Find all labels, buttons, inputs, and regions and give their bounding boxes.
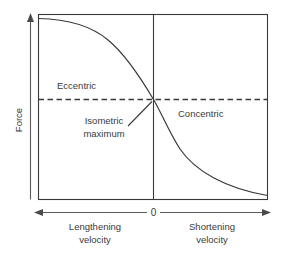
zero-velocity-label: 0 — [151, 207, 157, 218]
force-velocity-chart: Force 0 Eccentric Concentric Isometric m… — [0, 0, 282, 253]
eccentric-label: Eccentric — [57, 80, 96, 91]
shortening-velocity-label-line1: Shortening — [189, 221, 235, 232]
force-axis-label: Force — [13, 108, 24, 132]
shortening-velocity-label-line2: velocity — [196, 234, 228, 245]
concentric-label: Concentric — [178, 108, 224, 119]
lengthening-velocity-label-line1: Lengthening — [69, 221, 121, 232]
isometric-maximum-label-line2: maximum — [83, 128, 124, 139]
isometric-maximum-label-line1: Isometric — [85, 115, 124, 126]
lengthening-velocity-label-line2: velocity — [79, 234, 111, 245]
